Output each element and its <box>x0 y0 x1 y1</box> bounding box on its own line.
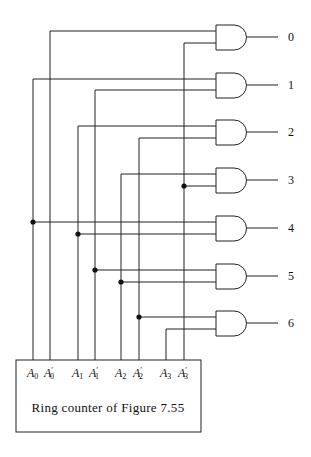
junction-dot <box>30 219 35 224</box>
and-gate-0 <box>216 25 278 50</box>
and-gate-6 <box>216 311 278 336</box>
junction-dot <box>75 231 80 236</box>
junction-dot <box>181 183 186 188</box>
junction-dots <box>30 183 186 319</box>
gate-input-wires <box>33 31 216 329</box>
junction-dot <box>118 279 123 284</box>
and-gate-5 <box>216 264 278 289</box>
output-labels: 0 1 2 3 4 5 6 <box>288 30 294 330</box>
and-gate-3 <box>216 168 278 193</box>
junction-dot <box>136 314 141 319</box>
and-gates <box>216 25 278 336</box>
output-label-1: 1 <box>288 78 294 92</box>
output-label-0: 0 <box>288 30 294 44</box>
pin-label-A1-prime: A′1 <box>88 366 99 381</box>
output-label-6: 6 <box>288 316 294 330</box>
and-gate-2 <box>216 120 278 145</box>
junction-dot <box>92 267 97 272</box>
input-lines <box>33 31 184 360</box>
and-gate-4 <box>216 216 278 241</box>
pin-label-A2-prime: A′2 <box>132 366 143 381</box>
output-label-4: 4 <box>288 221 294 235</box>
decoder-diagram: 0 1 2 3 4 5 6 Ring counter of Figure 7.5… <box>0 0 311 457</box>
output-label-5: 5 <box>288 269 294 283</box>
output-label-3: 3 <box>288 173 294 187</box>
ring-counter-label: Ring counter of Figure 7.55 <box>32 400 185 415</box>
pin-label-A0-prime: A′0 <box>43 366 54 381</box>
pin-label-A3-prime: A′3 <box>177 366 188 381</box>
and-gate-1 <box>216 73 278 98</box>
output-label-2: 2 <box>288 125 294 139</box>
